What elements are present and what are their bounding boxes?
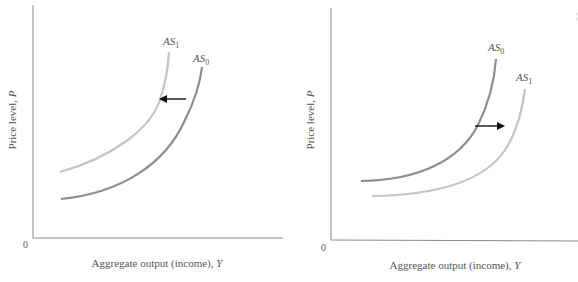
left-panel: AS1 AS0 0 Price level, P Aggregate outpu… [6,5,283,270]
right-as1-label: AS1 [515,71,532,86]
right-as0-curve [361,59,496,181]
left-as0-curve [61,67,202,199]
left-as1-label: AS1 [162,35,179,50]
left-y-axis-title: Price level, P [6,90,18,149]
as-shift-diagrams: AS1 AS0 0 Price level, P Aggregate outpu… [0,0,578,282]
left-as1-curve [60,52,169,172]
edge-marks [576,13,577,20]
right-y-axis-title: Price level, P [304,90,316,149]
right-origin-label: 0 [321,242,326,253]
right-as1-curve [372,89,525,196]
left-as0-label: AS0 [192,52,209,67]
left-origin-label: 0 [23,239,28,250]
right-x-axis-title: Aggregate output (income), Y [390,259,523,272]
right-x-axis [331,240,578,241]
right-as0-label: AS0 [487,41,504,56]
left-x-axis-title: Aggregate output (income), Y [92,257,225,270]
right-panel: AS0 AS1 0 Price level, P Aggregate outpu… [304,8,578,272]
